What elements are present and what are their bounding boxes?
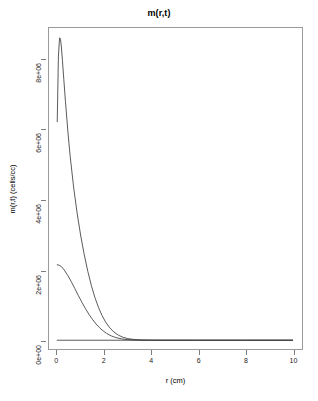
series-group	[57, 38, 292, 340]
x-tick-label: 4	[149, 357, 153, 365]
plot-curves-svg	[49, 28, 302, 349]
x-tick-mark	[56, 350, 57, 355]
y-tick-label-text: 4e+06	[35, 204, 43, 224]
y-tick-label-text: 2e+06	[35, 275, 43, 295]
x-tick-mark	[104, 350, 105, 355]
x-tick-mark	[246, 350, 247, 355]
x-tick-label: 10	[290, 357, 298, 365]
y-axis-title: m(r,t) (cells/cc)	[6, 27, 18, 350]
y-tick-label-text: 6e+06	[35, 133, 43, 153]
y-tick-label: 6e+06	[35, 143, 43, 163]
x-tick-mark	[294, 350, 295, 355]
series-line-curve-peak-high	[57, 38, 292, 340]
y-tick-mark	[41, 271, 46, 272]
y-tick-mark	[41, 59, 46, 60]
x-tick-label: 0	[54, 357, 58, 365]
y-tick-mark	[41, 341, 46, 342]
chart-figure: m(r,t) 0e+002e+064e+066e+068e+06 0246810…	[0, 0, 318, 401]
y-axis-title-label: m(r,t) (cells/cc)	[8, 164, 17, 213]
y-tick-label: 0e+00	[35, 355, 43, 375]
y-tick-label-text: 8e+06	[35, 63, 43, 83]
y-tick-label-text: 0e+00	[35, 345, 43, 365]
x-axis-title: r (cm)	[48, 376, 303, 385]
y-tick-label: 2e+06	[35, 284, 43, 304]
y-tick-mark	[41, 200, 46, 201]
x-tick-mark	[199, 350, 200, 355]
y-tick-label: 8e+06	[35, 73, 43, 93]
y-tick-mark	[41, 129, 46, 130]
y-tick-label: 4e+06	[35, 214, 43, 234]
series-line-curve-peak-low	[57, 265, 292, 340]
x-tick-label: 8	[244, 357, 248, 365]
plot-panel	[48, 27, 303, 350]
x-tick-label: 6	[197, 357, 201, 365]
page-title: m(r,t)	[0, 8, 318, 19]
x-tick-label: 2	[102, 357, 106, 365]
x-tick-mark	[151, 350, 152, 355]
x-axis: 0246810	[48, 350, 303, 372]
